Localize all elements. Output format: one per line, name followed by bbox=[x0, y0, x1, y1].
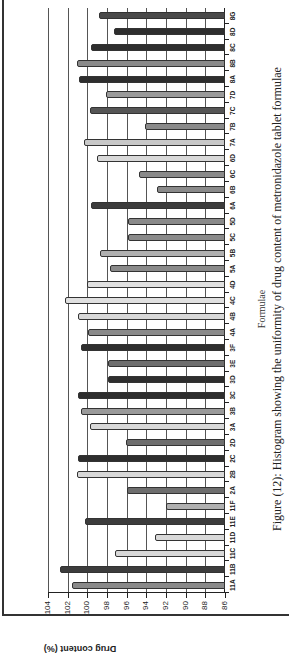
bar-8D bbox=[114, 28, 225, 35]
x-tick-label: 4A bbox=[229, 324, 236, 340]
x-tick-label: 3E bbox=[229, 356, 236, 372]
x-tick-label: 8B bbox=[229, 55, 236, 71]
x-tick-label: 11B bbox=[229, 561, 236, 577]
y-tick-label: 96 bbox=[122, 601, 131, 623]
x-tick-label: 6D bbox=[229, 150, 236, 166]
bar-3F bbox=[81, 344, 225, 351]
bar-4D bbox=[87, 281, 225, 288]
y-tick bbox=[127, 593, 128, 598]
y-tick-label: 100 bbox=[82, 601, 91, 623]
y-axis-line bbox=[48, 592, 225, 593]
y-tick-label: 102 bbox=[63, 601, 72, 623]
bar-4A bbox=[88, 329, 225, 336]
y-tick-label: 90 bbox=[181, 601, 190, 623]
bar-3C bbox=[78, 392, 225, 399]
x-tick-label: 4D bbox=[229, 277, 236, 293]
bar-6D bbox=[97, 155, 225, 162]
x-tick-label: 3A bbox=[229, 419, 236, 435]
bar-3E bbox=[108, 360, 225, 367]
x-tick-label: 6B bbox=[229, 182, 236, 198]
y-tick-label: 86 bbox=[220, 601, 229, 623]
x-tick-label: 11F bbox=[229, 498, 236, 514]
bar-7C bbox=[90, 107, 225, 114]
bar-2B bbox=[77, 471, 225, 478]
y-tick bbox=[205, 593, 206, 598]
bar-6B bbox=[157, 186, 225, 193]
x-tick-label: 11E bbox=[229, 514, 236, 530]
x-tick-label: 7A bbox=[229, 134, 236, 150]
y-tick bbox=[87, 593, 88, 598]
x-tick-label: 8G bbox=[229, 8, 236, 24]
x-tick-label: 7C bbox=[229, 103, 236, 119]
x-tick-label: 5A bbox=[229, 261, 236, 277]
bar-5D bbox=[128, 218, 225, 225]
x-tick-label: 3F bbox=[229, 340, 236, 356]
bar-5C bbox=[128, 234, 225, 241]
x-tick-label: 3C bbox=[229, 387, 236, 403]
y-tick bbox=[225, 593, 226, 598]
bar-4B bbox=[78, 313, 226, 320]
bar-2C bbox=[78, 455, 225, 462]
x-tick-label: 11C bbox=[229, 545, 236, 561]
plot-area: 8688909294969810010210411A11B11C11D11E11… bbox=[48, 8, 225, 593]
y-tick-label: 88 bbox=[200, 601, 209, 623]
bar-2A bbox=[127, 487, 225, 494]
bar-2D bbox=[126, 439, 225, 446]
bar-6A bbox=[91, 202, 225, 209]
x-tick-label: 11D bbox=[229, 530, 236, 546]
bar-7D bbox=[106, 91, 225, 98]
x-tick-label: 7B bbox=[229, 119, 236, 135]
y-tick bbox=[166, 593, 167, 598]
y-tick-label: 98 bbox=[102, 601, 111, 623]
gridline bbox=[48, 8, 49, 593]
y-tick-label: 104 bbox=[43, 601, 52, 623]
bar-11B bbox=[60, 566, 225, 573]
y-tick bbox=[48, 593, 49, 598]
x-tick-label: 4C bbox=[229, 293, 236, 309]
bar-11A bbox=[72, 582, 225, 589]
y-tick-label: 92 bbox=[161, 601, 170, 623]
bar-7A bbox=[84, 139, 225, 146]
x-tick-label: 2A bbox=[229, 482, 236, 498]
x-tick-label: 2B bbox=[229, 466, 236, 482]
y-tick-label: 94 bbox=[141, 601, 150, 623]
figure-caption: Figure (12): Histogram showing the unifo… bbox=[270, 0, 285, 599]
x-tick-label: 8D bbox=[229, 24, 236, 40]
bar-11F bbox=[166, 503, 225, 510]
bar-7B bbox=[145, 123, 225, 130]
bar-11D bbox=[155, 534, 225, 541]
bar-5A bbox=[110, 265, 225, 272]
x-tick-label: 4B bbox=[229, 308, 236, 324]
bar-8B bbox=[77, 60, 225, 67]
x-tick-label: 8A bbox=[229, 71, 236, 87]
x-tick-label: 5C bbox=[229, 229, 236, 245]
x-tick-label: 8C bbox=[229, 40, 236, 56]
x-axis-label: Formulae bbox=[256, 199, 267, 419]
y-tick bbox=[146, 593, 147, 598]
bar-6C bbox=[139, 171, 225, 178]
x-tick-label: 2C bbox=[229, 451, 236, 467]
x-tick-label: 6A bbox=[229, 198, 236, 214]
bar-5B bbox=[100, 250, 225, 257]
bar-11C bbox=[115, 550, 225, 557]
bar-3A bbox=[90, 424, 225, 431]
bar-3B bbox=[81, 408, 225, 415]
bar-8G bbox=[99, 12, 225, 19]
x-tick-label: 3B bbox=[229, 403, 236, 419]
y-tick bbox=[68, 593, 69, 598]
y-tick bbox=[186, 593, 187, 598]
bar-8A bbox=[79, 76, 225, 83]
bar-8C bbox=[91, 44, 225, 51]
x-tick-label: 2D bbox=[229, 435, 236, 451]
bar-4C bbox=[65, 297, 225, 304]
x-tick-label: 3D bbox=[229, 372, 236, 388]
x-tick-label: 5B bbox=[229, 245, 236, 261]
y-axis-label: Drug content (%) bbox=[0, 644, 170, 654]
y-tick bbox=[107, 593, 108, 598]
x-tick-label: 6C bbox=[229, 166, 236, 182]
x-tick-label: 11A bbox=[229, 577, 236, 593]
bar-11E bbox=[85, 518, 225, 525]
x-tick-label: 5D bbox=[229, 213, 236, 229]
bar-3D bbox=[108, 376, 225, 383]
